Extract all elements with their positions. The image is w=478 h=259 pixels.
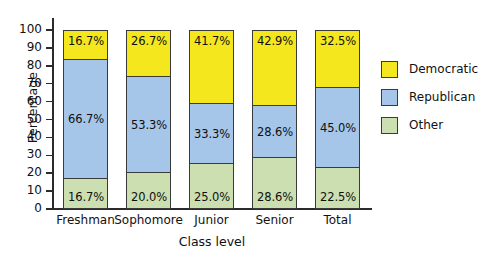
- bar-segment-democratic[interactable]: 26.7%: [126, 30, 171, 78]
- bar-junior[interactable]: 41.7%33.3%25.0%: [189, 30, 234, 209]
- y-axis-tick: [46, 208, 53, 210]
- bar-total[interactable]: 32.5%45.0%22.5%: [315, 30, 360, 209]
- bar-segment-value: 16.7%: [64, 31, 104, 48]
- bar-segment-other[interactable]: 20.0%: [126, 172, 171, 209]
- legend-swatch-icon: [381, 61, 398, 78]
- y-axis-tick: [46, 137, 53, 139]
- y-axis-tick-label: 0: [12, 202, 42, 214]
- legend-label: Democratic: [409, 62, 478, 76]
- bar-segment-other[interactable]: 28.6%: [252, 157, 297, 210]
- y-axis-tick: [46, 83, 53, 85]
- bar-segment-value: 28.6%: [253, 125, 293, 139]
- bar-segment-other[interactable]: 16.7%: [63, 178, 108, 209]
- bar-segment-value: 53.3%: [127, 118, 167, 132]
- bar-segment-other[interactable]: 25.0%: [189, 163, 234, 209]
- y-axis-tick: [46, 172, 53, 174]
- category-label-total: Total: [293, 213, 383, 227]
- bar-segment-other[interactable]: 22.5%: [315, 167, 360, 209]
- bar-segment-democratic[interactable]: 42.9%: [252, 30, 297, 107]
- legend-label: Other: [409, 118, 443, 132]
- bar-segment-republican[interactable]: 66.7%: [63, 59, 108, 180]
- y-axis-tick: [46, 47, 53, 49]
- bar-segment-democratic[interactable]: 41.7%: [189, 30, 234, 105]
- bar-segment-republican[interactable]: 28.6%: [252, 105, 297, 158]
- bar-segment-democratic[interactable]: 16.7%: [63, 30, 108, 60]
- y-axis-tick-label: 100: [12, 23, 42, 35]
- bar-segment-value: 66.7%: [64, 112, 104, 126]
- y-axis-tick-label: 10: [12, 184, 42, 196]
- x-axis-title: Class level: [52, 234, 372, 249]
- y-axis-tick-label: 20: [12, 166, 42, 178]
- plot-area: 16.7%66.7%16.7%26.7%53.3%20.0%41.7%33.3%…: [53, 30, 371, 209]
- y-axis-tick: [46, 155, 53, 157]
- bar-senior[interactable]: 42.9%28.6%28.6%: [252, 30, 297, 209]
- bar-segment-democratic[interactable]: 32.5%: [315, 30, 360, 88]
- bar-segment-value: 22.5%: [316, 190, 356, 208]
- y-axis-tick-label: 90: [12, 41, 42, 53]
- bar-segment-value: 16.7%: [64, 190, 104, 208]
- y-axis-tick-label: 50: [12, 113, 42, 125]
- bar-segment-value: 20.0%: [127, 190, 167, 208]
- bar-segment-value: 41.7%: [190, 31, 230, 48]
- bar-segment-republican[interactable]: 33.3%: [189, 103, 234, 164]
- bar-sophomore[interactable]: 26.7%53.3%20.0%: [126, 30, 171, 209]
- y-axis-tick: [46, 65, 53, 67]
- y-axis-tick: [46, 101, 53, 103]
- bar-freshman[interactable]: 16.7%66.7%16.7%: [63, 30, 108, 209]
- bar-segment-republican[interactable]: 53.3%: [126, 76, 171, 173]
- bar-segment-value: 28.6%: [253, 190, 293, 208]
- bar-segment-value: 42.9%: [253, 31, 293, 48]
- bar-segment-value: 26.7%: [127, 31, 167, 48]
- bar-segment-value: 32.5%: [316, 31, 356, 48]
- legend-item-democratic[interactable]: Democratic: [381, 55, 471, 83]
- legend: DemocraticRepublicanOther: [381, 55, 471, 139]
- y-axis-tick-label: 40: [12, 130, 42, 142]
- y-axis-tick-label: 70: [12, 77, 42, 89]
- legend-item-republican[interactable]: Republican: [381, 83, 471, 111]
- y-axis-tick: [46, 29, 53, 31]
- bar-segment-value: 45.0%: [316, 121, 356, 135]
- bar-segment-republican[interactable]: 45.0%: [315, 87, 360, 169]
- y-axis-tick: [46, 190, 53, 192]
- bar-segment-value: 33.3%: [190, 127, 230, 141]
- y-axis-tick: [46, 119, 53, 121]
- legend-swatch-icon: [381, 89, 398, 106]
- legend-label: Republican: [409, 90, 475, 104]
- bar-segment-value: 25.0%: [190, 190, 230, 208]
- legend-swatch-icon: [381, 117, 398, 134]
- y-axis-tick-label: 80: [12, 59, 42, 71]
- y-axis-tick-label: 30: [12, 148, 42, 160]
- legend-item-other[interactable]: Other: [381, 111, 471, 139]
- y-axis-tick-label: 60: [12, 95, 42, 107]
